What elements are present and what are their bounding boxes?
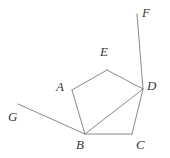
edges-group: [18, 14, 143, 134]
vertex-label-c: C: [136, 138, 145, 151]
segment-AE: [72, 70, 107, 90]
ray-GB: [18, 104, 85, 134]
geometry-figure: A B C D E F G: [0, 0, 170, 158]
vertex-label-b: B: [76, 138, 84, 151]
vertex-label-f: F: [142, 6, 150, 19]
vertex-label-e: E: [100, 45, 108, 58]
figure-canvas: [0, 0, 170, 158]
segment-AB: [72, 90, 85, 134]
segment-ED: [107, 70, 143, 89]
ray-FD: [137, 14, 143, 89]
vertex-label-g: G: [8, 110, 17, 123]
vertex-label-d: D: [147, 79, 156, 92]
segment-BD: [85, 89, 143, 134]
vertex-label-a: A: [56, 80, 64, 93]
